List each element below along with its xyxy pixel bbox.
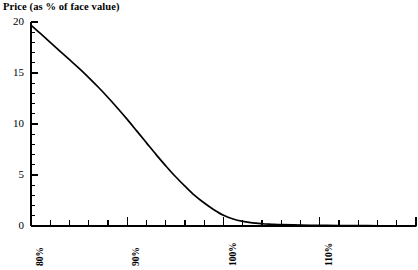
y-tick-label: 0 bbox=[2, 220, 24, 231]
chart-plot-area bbox=[0, 0, 418, 270]
y-tick-label: 20 bbox=[2, 16, 24, 27]
axes-group bbox=[31, 22, 416, 226]
y-tick-label: 5 bbox=[2, 169, 24, 180]
price-curve-series bbox=[31, 25, 416, 226]
y-axis-ticks bbox=[31, 22, 38, 226]
x-tick-label: 80% bbox=[35, 247, 45, 266]
y-tick-label: 15 bbox=[2, 67, 24, 78]
chart-container: Price (as % of face value) 05101520 80%9… bbox=[0, 0, 418, 270]
x-tick-label: 110% bbox=[324, 243, 334, 266]
y-tick-label: 10 bbox=[2, 118, 24, 129]
x-axis-ticks bbox=[31, 217, 416, 226]
x-tick-label: 100% bbox=[228, 242, 238, 266]
x-tick-label: 90% bbox=[131, 247, 141, 266]
